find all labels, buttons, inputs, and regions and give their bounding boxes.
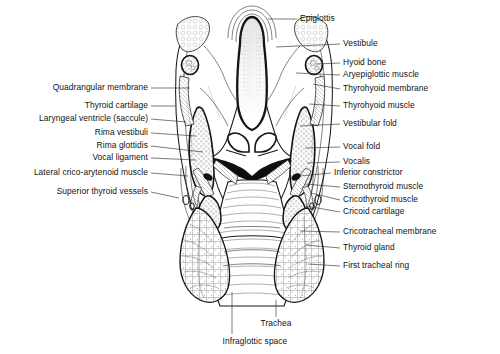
label-infraglottic-space: Infraglottic space [195, 337, 315, 346]
label-laryngeal-ventricle-saccule: Laryngeal ventricle (saccule) [39, 114, 148, 123]
label-rima-vestibuli: Rima vestibuli [95, 128, 148, 137]
label-quadrangular-membrane: Quadrangular membrane [53, 83, 148, 92]
label-thyroid-cartilage: Thyroid cartilage [85, 101, 148, 110]
hyoid-bone-right-greater-horn [306, 56, 323, 75]
label-vocal-fold: Vocal fold [343, 142, 380, 151]
label-hyoid-bone: Hyoid bone [343, 58, 386, 67]
hyoid-bone-left-greater-horn [182, 56, 199, 75]
vestibular-fold-right [255, 133, 276, 152]
aryepiglottic-fold-left [204, 46, 236, 100]
larynx-coronal-section-figure: Quadrangular membraneThyroid cartilageLa… [0, 0, 500, 354]
label-thyrohyoid-membrane: Thyrohyoid membrane [343, 84, 428, 93]
label-cricoid-cartilage: Cricoid cartilage [343, 207, 404, 216]
label-sternothyroid-muscle: Sternothyroid muscle [343, 182, 423, 191]
label-thyrohyoid-muscle: Thyrohyoid muscle [343, 101, 415, 110]
leader-thyrohyoid-muscle [309, 104, 340, 106]
label-trachea: Trachea [216, 319, 336, 328]
label-first-tracheal-ring: First tracheal ring [343, 261, 409, 270]
label-cricotracheal-membrane: Cricotracheal membrane [343, 227, 436, 236]
label-inferior-constrictor: Inferior constrictor [334, 168, 403, 177]
aryepiglottic-fold-right [268, 46, 300, 100]
epiglottis-cartilage [237, 17, 267, 130]
epiglottis-and-vestibule [214, 6, 290, 156]
label-thyroid-gland: Thyroid gland [343, 243, 395, 252]
label-epiglottis: Epiglottis [300, 14, 335, 23]
label-superior-thyroid-vessels: Superior thyroid vessels [57, 187, 148, 196]
label-aryepiglottic-muscle: Aryepiglottic muscle [343, 70, 419, 79]
label-cricothyroid-muscle: Cricothyroid muscle [343, 195, 418, 204]
thyrohyoid-muscle-right [310, 76, 325, 126]
label-vestibular-fold: Vestibular fold [343, 119, 397, 128]
label-rima-glottidis: Rima glottidis [97, 141, 148, 150]
thyrohyoid-muscle-left [179, 76, 194, 126]
leader-laryngeal-ventricle-saccule [151, 119, 186, 122]
leader-lateral-crico-arytenoid-muscle [151, 173, 188, 176]
label-vocal-ligament: Vocal ligament [92, 153, 148, 162]
label-vocalis: Vocalis [343, 157, 370, 166]
vestibular-fold-left [228, 133, 249, 152]
label-vestibule: Vestibule [343, 39, 378, 48]
label-lateral-crico-arytenoid-muscle: Lateral crico-arytenoid muscle [34, 168, 148, 177]
anatomy-drawing [0, 0, 500, 354]
leader-superior-thyroid-vessels [151, 192, 179, 198]
